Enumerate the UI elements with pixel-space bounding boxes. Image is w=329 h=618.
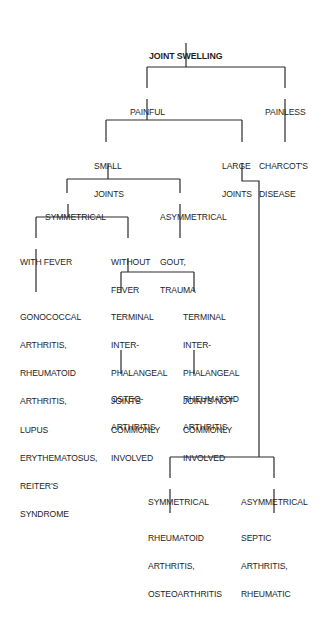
node-label: ARTHRITIS, <box>20 397 97 406</box>
node-label: ERYTHEMATOSUS, <box>20 454 97 463</box>
node-label: SMALL <box>94 162 124 171</box>
node-label: TERMINAL <box>111 313 167 322</box>
node-label: ARTHRITIS, <box>148 562 222 571</box>
node-label: SYNDROME <box>20 510 97 519</box>
node-large-symmetrical-diagnoses: RHEUMATOID ARTHRITIS, OSTEOARTHRITIS RIC… <box>148 515 222 618</box>
node-label: OSTEOARTHRITIS <box>148 590 222 599</box>
node-painful: PAINFUL <box>130 89 165 127</box>
node-small-symmetrical: SYMMETRICAL <box>45 194 106 232</box>
node-label: ARTHRITIS, <box>20 341 97 350</box>
node-osteoarthritis: OSTEO- ARTHRITIS <box>111 376 155 442</box>
node-label: JOINT SWELLING <box>149 52 222 61</box>
node-label: WITHOUT <box>111 258 150 267</box>
node-large-asymmetrical-diagnoses: SEPTIC ARTHRITIS, RHEUMATIC FEVER, GOUT,… <box>241 515 309 618</box>
node-label: GOUT, <box>160 258 196 267</box>
node-label: ARTHRITIS <box>183 423 239 432</box>
node-label: INVOLVED <box>183 454 239 463</box>
node-label: GONOCOCCAL <box>20 313 97 322</box>
node-label: ASYMMETRICAL <box>160 213 227 222</box>
node-label: INVOLVED <box>111 454 167 463</box>
node-label: INTER- <box>183 341 239 350</box>
node-charcots-disease: CHARCOT'S DISEASE <box>259 143 308 209</box>
node-with-fever: WITH FEVER <box>20 239 72 277</box>
node-large-asymmetrical: ASYMMETRICAL <box>241 479 308 517</box>
node-label: INTER- <box>111 341 167 350</box>
node-rheumatoid-arthritis: RHEUMATOID ARTHRITIS <box>183 376 239 442</box>
node-label: LARGE <box>222 162 252 171</box>
node-label: ARTHRITIS, <box>241 562 309 571</box>
node-label: SYMMETRICAL <box>45 213 106 222</box>
node-label: LUPUS <box>20 426 97 435</box>
node-label: ASYMMETRICAL <box>241 498 308 507</box>
node-small-asymmetrical: ASYMMETRICAL <box>160 194 227 232</box>
node-label: CHARCOT'S <box>259 162 308 171</box>
node-large-symmetrical: SYMMETRICAL <box>148 479 209 517</box>
node-label: RHEUMATIC <box>241 590 309 599</box>
node-label: PAINLESS <box>265 108 306 117</box>
node-label: ARTHRITIS <box>111 423 155 432</box>
node-label: SEPTIC <box>241 534 309 543</box>
node-with-fever-diagnoses: GONOCOCCAL ARTHRITIS, RHEUMATOID ARTHRIT… <box>20 294 97 529</box>
node-painless: PAINLESS <box>265 89 306 127</box>
node-label: SYMMETRICAL <box>148 498 209 507</box>
node-label: RHEUMATOID <box>20 369 97 378</box>
node-label: TERMINAL <box>183 313 239 322</box>
node-label: DISEASE <box>259 190 308 199</box>
node-label: PAINFUL <box>130 108 165 117</box>
node-label: OSTEO- <box>111 395 155 404</box>
node-label: RHEUMATOID <box>183 395 239 404</box>
node-joint-swelling: JOINT SWELLING <box>149 33 222 71</box>
node-label: WITH FEVER <box>20 258 72 267</box>
node-label: REITER'S <box>20 482 97 491</box>
node-label: RHEUMATOID <box>148 534 222 543</box>
